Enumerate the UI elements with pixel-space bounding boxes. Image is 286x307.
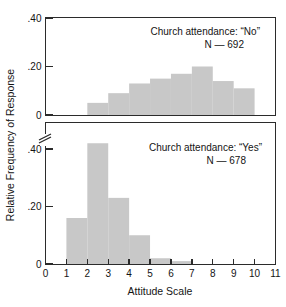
panel-bottom-annotation-line1: Church attendance: “Yes” <box>149 142 262 153</box>
x-axis-tick-label: 2 <box>85 268 91 279</box>
x-axis-tick-label: 10 <box>249 268 261 279</box>
y-axis-tick-label: .20 <box>28 61 42 72</box>
x-axis-title: Attitude Scale <box>128 285 193 297</box>
panel-top-annotation-line1: Church attendance: “No” <box>150 26 260 37</box>
histogram-figure: 0.20.40 Church attendance: “No” N — 692 … <box>0 0 286 307</box>
histogram-bar <box>234 88 255 115</box>
y-axis-tick-label: 0 <box>36 259 42 270</box>
x-axis-tick-label: 11 <box>270 268 281 279</box>
y-axis-break-icon <box>39 134 52 146</box>
histogram-bar <box>108 93 129 115</box>
histogram-bar <box>213 81 234 115</box>
x-axis-tick-label: 6 <box>168 268 174 279</box>
histogram-bar <box>171 261 192 264</box>
x-axis-tick-label: 9 <box>231 268 237 279</box>
histogram-bar <box>150 258 171 264</box>
histogram-bar <box>171 74 192 115</box>
histogram-bar <box>129 83 150 115</box>
histogram-bar <box>192 67 213 116</box>
x-axis-tick-label: 5 <box>147 268 153 279</box>
y-axis-tick-label: .40 <box>28 144 42 155</box>
histogram-bar <box>129 235 150 264</box>
panel-top-annotation-line2: N — 692 <box>205 39 245 50</box>
x-axis-tick-label: 3 <box>105 268 111 279</box>
x-axis-tick-label: 7 <box>189 268 195 279</box>
histogram-bar <box>87 103 108 115</box>
chart-canvas: 0.20.40 Church attendance: “No” N — 692 … <box>0 0 286 307</box>
histogram-bar <box>66 218 87 264</box>
x-axis-tick-label: 8 <box>210 268 216 279</box>
y-axis-tick-label: 0 <box>36 110 42 121</box>
panel-bottom-annotation-line2: N — 678 <box>207 155 247 166</box>
y-axis-title: Relative Frequency of Response <box>4 69 16 221</box>
y-axis-tick-label: .20 <box>28 201 42 212</box>
x-axis-tick-label: 0 <box>43 268 49 279</box>
histogram-bar <box>87 143 108 264</box>
x-axis-tick-label: 1 <box>64 268 70 279</box>
histogram-bar <box>108 198 129 264</box>
y-axis-tick-label: .40 <box>28 13 42 24</box>
histogram-bar <box>150 79 171 115</box>
x-axis-tick-label: 4 <box>126 268 132 279</box>
